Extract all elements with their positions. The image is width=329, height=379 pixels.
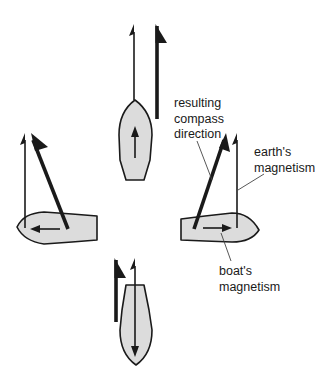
flag-arrowhead-icon — [115, 258, 127, 278]
hull-west — [17, 212, 97, 244]
leader-line-compass-direction — [197, 141, 212, 180]
boat-east — [181, 133, 264, 261]
boat-west — [17, 133, 97, 244]
label-line: magnetism — [219, 280, 280, 296]
arrowhead-icon — [232, 133, 237, 145]
boat-north — [119, 24, 167, 180]
label-line: resulting — [174, 96, 224, 112]
flag-arrowhead-icon — [31, 133, 48, 151]
label-line: compass — [174, 112, 224, 128]
label-line: earth's — [254, 145, 315, 161]
arrowhead-icon — [20, 133, 25, 145]
arrowhead-icon — [130, 258, 135, 270]
diagram-graphic — [0, 0, 329, 379]
label-line: magnetism — [254, 161, 315, 177]
label-line: boat's — [219, 264, 280, 280]
label-line: direction — [174, 127, 224, 143]
label-resulting-compass-direction: resulting compass direction — [174, 96, 224, 143]
compass-deviation-diagram: resulting compass direction earth's magn… — [0, 0, 329, 379]
label-earths-magnetism: earth's magnetism — [254, 145, 315, 176]
boat-south — [115, 258, 153, 365]
label-boats-magnetism: boat's magnetism — [219, 264, 280, 295]
leader-line-earth-magnetism — [238, 174, 264, 190]
arrowhead-icon — [129, 24, 134, 36]
